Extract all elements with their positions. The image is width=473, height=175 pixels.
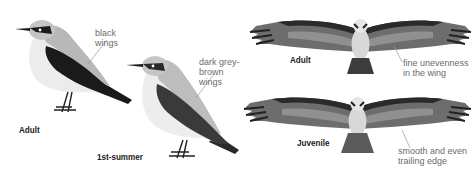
- wheatear-adult-illustration: [10, 12, 135, 112]
- caption-osprey-juvenile: Juvenile: [297, 138, 329, 148]
- annotation-black-wings: black wings: [95, 28, 118, 48]
- annotation-smooth-trailing-edge: smooth and even trailing edge: [398, 146, 467, 166]
- annotation-dark-grey-brown-wings: dark grey- brown wings: [199, 57, 240, 87]
- annotation-fine-unevenness: fine unevenness in the wing: [403, 58, 469, 78]
- caption-wheatear-adult: Adult: [19, 125, 40, 135]
- caption-wheatear-first-summer: 1st-summer: [97, 152, 143, 162]
- caption-osprey-adult: Adult: [290, 55, 311, 65]
- bird-identification-plate: black wings Adult dark grey- brown wings…: [0, 0, 473, 175]
